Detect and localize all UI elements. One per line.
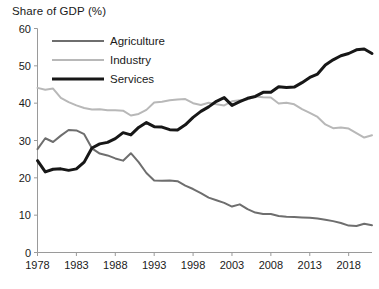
chart-legend: AgricultureIndustryServices (52, 35, 165, 85)
x-tick-label: 1993 (142, 259, 166, 271)
line-chart-plot: 0102030405060 19781983198819931998200320… (0, 0, 379, 289)
x-tick-label: 2013 (298, 259, 322, 271)
series-group (38, 49, 373, 226)
x-tick-label: 2008 (259, 259, 283, 271)
x-tick-group: 197819831988199319982003200820132018 (25, 253, 361, 271)
x-axis: 197819831988199319982003200820132018 (25, 253, 372, 271)
legend-label-services: Services (110, 73, 154, 85)
y-tick-group: 0102030405060 (19, 23, 38, 259)
legend-label-industry: Industry (110, 54, 151, 66)
y-tick-label: 50 (19, 60, 31, 72)
series-line-industry (38, 88, 373, 138)
legend-label-agriculture: Agriculture (110, 35, 165, 47)
y-axis: 0102030405060 (19, 23, 38, 259)
y-tick-label: 0 (25, 247, 31, 259)
series-line-agriculture (38, 130, 373, 226)
chart-container: Share of GDP (%) 0102030405060 197819831… (0, 0, 379, 289)
x-tick-label: 1998 (181, 259, 205, 271)
x-tick-label: 1988 (103, 259, 127, 271)
x-tick-label: 1983 (64, 259, 88, 271)
y-tick-label: 20 (19, 172, 31, 184)
y-tick-label: 40 (19, 97, 31, 109)
y-tick-label: 30 (19, 135, 31, 147)
x-tick-label: 2018 (336, 259, 360, 271)
y-tick-label: 10 (19, 209, 31, 221)
x-tick-label: 2003 (220, 259, 244, 271)
y-tick-label: 60 (19, 23, 31, 35)
x-tick-label: 1978 (25, 259, 49, 271)
series-line-services (38, 49, 373, 172)
